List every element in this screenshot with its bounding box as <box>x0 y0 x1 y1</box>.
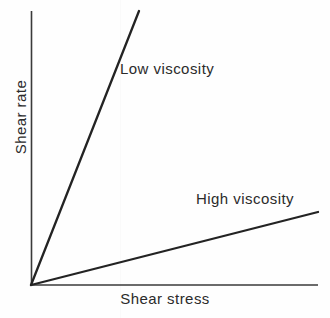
y-axis-title-container: Shear rate <box>10 42 30 192</box>
low-viscosity-label: Low viscosity <box>120 61 214 76</box>
low-viscosity-line <box>31 11 139 285</box>
high-viscosity-line <box>31 212 318 285</box>
x-axis-title: Shear stress <box>0 291 330 306</box>
plot-area <box>0 0 330 318</box>
y-axis-title: Shear rate <box>13 80 28 155</box>
high-viscosity-label: High viscosity <box>196 191 294 206</box>
viscosity-shear-diagram: Low viscosity High viscosity Shear stres… <box>0 0 330 318</box>
